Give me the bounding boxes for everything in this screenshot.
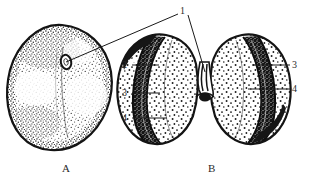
seed-diagram-illustration [0,0,310,183]
panel-b-right-cotyledon [205,25,300,155]
callout-label-3-left: 3 [122,88,127,98]
callout-label-4-right: 4 [292,84,297,94]
callout-label-3-right: 3 [292,60,297,70]
panel-b-split-seed [110,25,300,155]
callout-label-2: 2 [122,60,127,70]
panel-caption-b: B [208,162,216,174]
panel-a-seed [0,15,125,170]
panel-a-seed-coat-fill [0,15,125,170]
panel-caption-a: A [62,162,70,174]
callout-label-4-left: 4 [122,113,127,123]
callout-label-1: 1 [180,6,185,16]
figure-root: 1 2 3 4 3 4 A B [0,0,310,183]
